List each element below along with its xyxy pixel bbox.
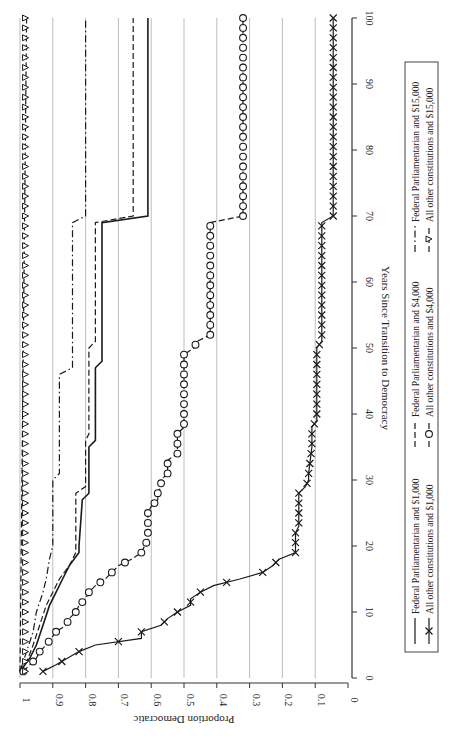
triangle-marker-icon bbox=[23, 282, 29, 288]
years-tick-label: 0 bbox=[364, 676, 375, 681]
triangle-marker-icon bbox=[23, 441, 29, 447]
circle-marker-icon bbox=[240, 94, 247, 101]
x-marker-icon bbox=[161, 618, 168, 625]
years-tick-label: 60 bbox=[364, 277, 375, 287]
circle-marker-icon bbox=[207, 331, 214, 338]
circle-marker-icon bbox=[240, 34, 247, 41]
proportion-tick-label: 0.8 bbox=[87, 694, 98, 707]
circle-marker-icon bbox=[181, 421, 188, 428]
circle-marker-icon bbox=[154, 490, 161, 497]
circle-marker-icon bbox=[181, 391, 188, 398]
triangle-marker-icon bbox=[23, 530, 29, 536]
triangle-marker-icon bbox=[23, 332, 29, 338]
triangle-marker-icon bbox=[23, 371, 29, 377]
triangle-marker-icon bbox=[23, 312, 29, 318]
triangle-marker-icon bbox=[23, 461, 29, 467]
triangle-marker-icon bbox=[23, 579, 29, 585]
circle-marker-icon bbox=[181, 401, 188, 408]
triangle-marker-icon bbox=[23, 45, 29, 51]
circle-marker-icon bbox=[145, 520, 152, 527]
circle-marker-icon bbox=[240, 193, 247, 200]
series-line bbox=[20, 18, 133, 671]
circle-marker-icon bbox=[164, 460, 171, 467]
triangle-marker-icon bbox=[23, 292, 29, 298]
triangle-marker-icon bbox=[23, 243, 29, 249]
circle-marker-icon bbox=[181, 361, 188, 368]
circle-marker-icon bbox=[207, 223, 214, 230]
circle-marker-icon bbox=[240, 173, 247, 180]
circle-marker-icon bbox=[207, 282, 214, 289]
triangle-marker-icon bbox=[23, 609, 29, 615]
years-tick-label: 70 bbox=[364, 211, 375, 221]
triangle-marker-icon bbox=[23, 421, 29, 427]
legend-label: All other constitutions and $15,000 bbox=[425, 87, 435, 222]
proportion-tick-label: 0 bbox=[349, 698, 360, 703]
x-marker-icon bbox=[304, 480, 311, 487]
triangle-marker-icon bbox=[23, 629, 29, 635]
circle-marker-icon bbox=[30, 658, 37, 665]
triangle-marker-icon bbox=[23, 639, 29, 645]
legend-label: Federal Parliamentarian and $4,000 bbox=[411, 281, 421, 417]
circle-marker-icon bbox=[240, 213, 247, 220]
circle-marker-icon bbox=[85, 589, 92, 596]
proportion-tick-label: 0.6 bbox=[152, 694, 163, 707]
circle-marker-icon bbox=[240, 15, 247, 22]
circle-marker-icon bbox=[108, 569, 115, 576]
legend-label: Federal Parliamentarian and $1,000 bbox=[411, 478, 421, 614]
triangle-marker-icon bbox=[23, 490, 29, 496]
triangle-marker-icon bbox=[23, 401, 29, 407]
circle-marker-icon bbox=[240, 74, 247, 81]
circle-marker-icon bbox=[240, 44, 247, 51]
triangle-marker-icon bbox=[23, 560, 29, 566]
circle-marker-icon bbox=[207, 262, 214, 269]
proportion-tick-label: 0.1 bbox=[316, 694, 327, 707]
years-tick-label: 100 bbox=[364, 11, 375, 26]
x-marker-icon bbox=[76, 648, 83, 655]
circle-marker-icon bbox=[240, 143, 247, 150]
x-marker-icon bbox=[39, 668, 46, 675]
circle-marker-icon bbox=[207, 322, 214, 329]
circle-marker-icon bbox=[79, 599, 86, 606]
triangle-marker-icon bbox=[23, 233, 29, 239]
circle-marker-icon bbox=[240, 54, 247, 61]
legend: Federal Parliamentarian and $1,000Federa… bbox=[405, 62, 438, 652]
years-tick-label: 20 bbox=[364, 541, 375, 551]
series-1 bbox=[20, 18, 133, 671]
triangle-marker-icon bbox=[23, 35, 29, 41]
circle-marker-icon bbox=[122, 559, 129, 566]
triangle-marker-icon bbox=[23, 362, 29, 368]
triangle-marker-icon bbox=[23, 25, 29, 31]
triangle-marker-icon bbox=[23, 451, 29, 457]
triangle-marker-icon bbox=[23, 540, 29, 546]
triangle-marker-icon bbox=[23, 411, 29, 417]
triangle-marker-icon bbox=[23, 510, 29, 516]
triangle-marker-icon bbox=[23, 569, 29, 575]
triangle-marker-icon bbox=[23, 183, 29, 189]
series-0 bbox=[20, 18, 148, 671]
survival-chart: 00.10.20.30.40.50.60.70.80.91Proportion … bbox=[0, 0, 449, 736]
triangle-marker-icon bbox=[23, 203, 29, 209]
years-tick-label: 40 bbox=[364, 409, 375, 419]
years-tick-label: 50 bbox=[364, 343, 375, 353]
circle-marker-icon bbox=[145, 510, 152, 517]
x-marker-icon bbox=[174, 609, 181, 616]
triangle-marker-icon bbox=[23, 213, 29, 219]
circle-marker-icon bbox=[97, 579, 104, 586]
circle-marker-icon bbox=[72, 609, 79, 616]
triangle-marker-icon bbox=[23, 253, 29, 259]
circle-marker-icon bbox=[174, 430, 181, 437]
proportion-tick-label: 0.4 bbox=[218, 694, 229, 707]
circle-marker-icon bbox=[207, 252, 214, 259]
circle-marker-icon bbox=[207, 272, 214, 279]
circle-marker-icon bbox=[240, 133, 247, 140]
x-marker-icon bbox=[58, 658, 65, 665]
circle-marker-icon bbox=[45, 638, 52, 645]
x-marker-icon bbox=[197, 589, 204, 596]
proportion-tick-label: 0.2 bbox=[283, 694, 294, 707]
legend-label: Federal Parliamentarian and $15,000 bbox=[411, 81, 421, 222]
circle-marker-icon bbox=[207, 312, 214, 319]
circle-marker-icon bbox=[181, 381, 188, 388]
circle-marker-icon bbox=[240, 124, 247, 131]
x-marker-icon bbox=[259, 569, 266, 576]
circle-marker-icon bbox=[143, 539, 150, 546]
